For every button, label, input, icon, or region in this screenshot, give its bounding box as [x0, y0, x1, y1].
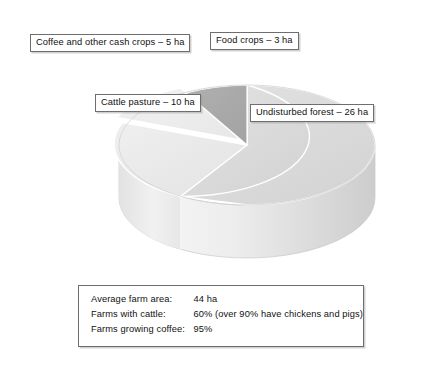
summary-row-label: Farms growing coffee: [91, 324, 191, 339]
callout-undisturbed-forest[interactable]: Undisturbed forest – 26 ha [250, 104, 374, 122]
callout-food-crops[interactable]: Food crops – 3 ha [210, 32, 299, 50]
summary-row-value: 95% [191, 324, 363, 339]
summary-row-value: 60% (over 90% have chickens and pigs) [191, 309, 363, 324]
chart-canvas: Coffee and other cash crops – 5 ha Food … [0, 0, 421, 370]
callout-coffee-cash-crops[interactable]: Coffee and other cash crops – 5 ha [30, 34, 190, 52]
summary-row-label: Farms with cattle: [91, 309, 191, 324]
summary-row-value: 44 ha [191, 294, 363, 309]
summary-table: Average farm area: 44 ha Farms with catt… [78, 285, 364, 347]
summary-row-label: Average farm area: [91, 294, 191, 309]
summary-table-grid: Average farm area: 44 ha Farms with catt… [91, 294, 363, 339]
callout-cattle-pasture[interactable]: Cattle pasture – 10 ha [95, 94, 201, 112]
table-row: Average farm area: 44 ha [91, 294, 363, 309]
table-row: Farms with cattle: 60% (over 90% have ch… [91, 309, 363, 324]
table-row: Farms growing coffee: 95% [91, 324, 363, 339]
summary-table-body: Average farm area: 44 ha Farms with catt… [91, 294, 363, 339]
